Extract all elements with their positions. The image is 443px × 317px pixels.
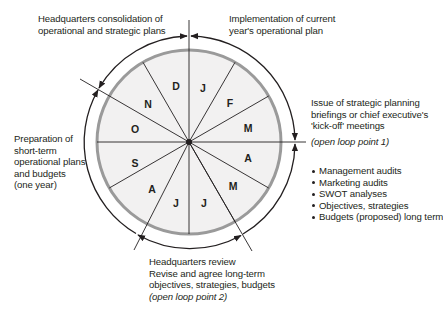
center-hub (186, 139, 192, 145)
month-feb: F (227, 97, 234, 109)
audit-bullet-list: Management audits Marketing audits SWOT … (311, 165, 443, 223)
label-implementation: Implementation of current year's operati… (229, 13, 335, 36)
label-short-term-prep: Preparation of short-term operational pl… (14, 133, 85, 191)
label-open-loop-2: (open loop point 2) (149, 291, 275, 303)
month-mar: M (244, 122, 253, 134)
month-oct: O (131, 123, 139, 135)
label-open-loop-1: (open loop point 1) (311, 136, 389, 148)
month-dec: D (172, 80, 180, 92)
month-apr: A (244, 152, 252, 164)
bullet-item: Marketing audits (311, 177, 443, 189)
month-jul: J (173, 197, 179, 209)
label-hq-consolidation: Headquarters consolidation of operationa… (38, 13, 166, 36)
bullet-item: Objectives, strategies (311, 200, 443, 212)
month-sep: S (131, 157, 138, 169)
month-aug: A (148, 183, 156, 195)
month-jun: J (201, 197, 207, 209)
bullet-item: Management audits (311, 165, 443, 177)
bullet-item: SWOT analyses (311, 188, 443, 200)
month-nov: N (144, 98, 152, 110)
bullet-item: Budgets (proposed) long term (311, 211, 443, 223)
label-hq-review: Headquarters review Revise and agree lon… (149, 256, 275, 302)
month-jan: J (200, 82, 206, 94)
label-strategic-briefings: Issue of strategic planning briefings or… (311, 97, 428, 132)
month-may: M (229, 180, 238, 192)
